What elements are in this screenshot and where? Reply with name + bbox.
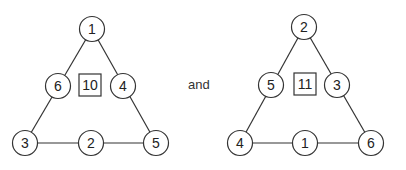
node-left-bottom-left: 3 — [13, 131, 38, 156]
svg-text:1: 1 — [88, 21, 96, 37]
svg-text:11: 11 — [298, 76, 313, 92]
node-left-top: 1 — [80, 17, 105, 42]
node-left-left-mid: 6 — [46, 74, 71, 99]
node-right-bottom-mid: 1 — [293, 131, 318, 156]
svg-text:3: 3 — [21, 135, 29, 151]
svg-text:1: 1 — [301, 135, 309, 151]
node-left-right-mid: 4 — [111, 74, 136, 99]
svg-text:6: 6 — [54, 78, 62, 94]
node-right-bottom-right: 6 — [359, 131, 384, 156]
node-right-left-mid: 5 — [259, 73, 284, 98]
svg-text:2: 2 — [300, 19, 308, 35]
connector-and-label: and — [188, 77, 210, 92]
sum-box-right: 11 — [294, 73, 316, 95]
node-left-bottom-mid: 2 — [79, 131, 104, 156]
svg-text:4: 4 — [119, 78, 127, 94]
svg-text:5: 5 — [267, 77, 275, 93]
svg-text:3: 3 — [333, 77, 341, 93]
node-right-right-mid: 3 — [325, 73, 350, 98]
sum-box-left: 10 — [79, 74, 101, 96]
node-right-bottom-left: 4 — [228, 131, 253, 156]
svg-text:10: 10 — [82, 77, 98, 93]
svg-text:2: 2 — [87, 135, 95, 151]
node-left-bottom-right: 5 — [144, 131, 169, 156]
svg-text:4: 4 — [236, 135, 244, 151]
node-right-top: 2 — [292, 15, 317, 40]
svg-text:5: 5 — [152, 135, 160, 151]
svg-text:6: 6 — [367, 135, 375, 151]
